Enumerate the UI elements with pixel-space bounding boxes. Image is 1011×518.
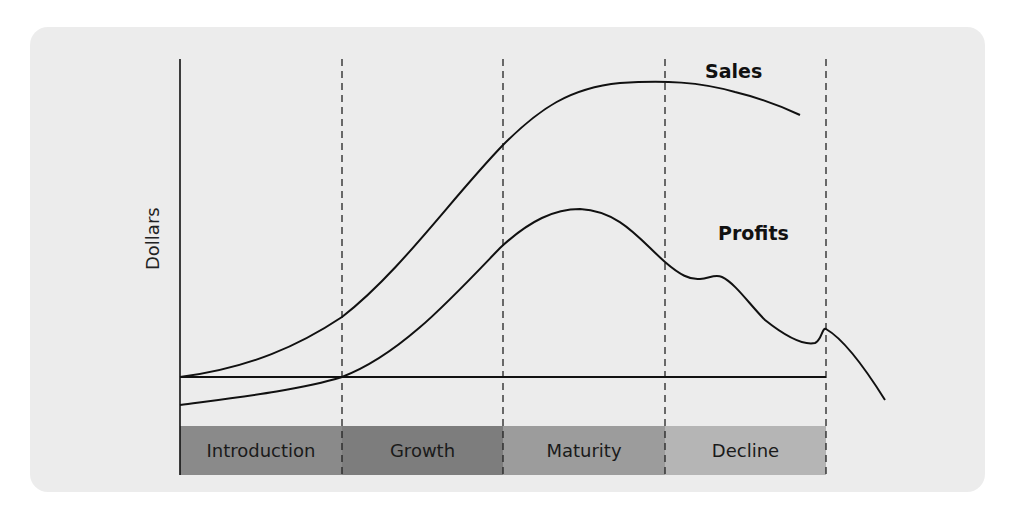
profits-label: Profits — [718, 222, 789, 244]
stage-dividers — [342, 59, 826, 475]
y-axis-label: Dollars — [142, 207, 163, 270]
stage-growth: Growth — [342, 426, 503, 475]
stage-decline: Decline — [665, 426, 826, 475]
sales-label: Sales — [705, 60, 762, 82]
stage-introduction: Introduction — [180, 426, 342, 475]
sales-curve — [180, 82, 800, 377]
stage-maturity: Maturity — [503, 426, 665, 475]
